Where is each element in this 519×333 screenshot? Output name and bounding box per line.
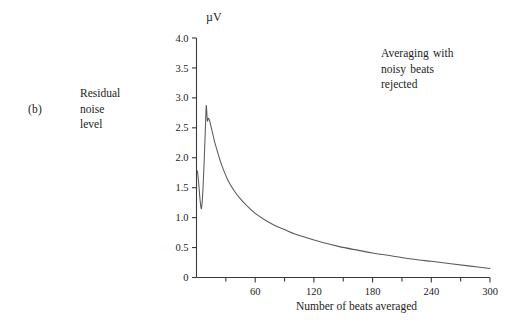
tick-labels-group: 00.51.01.52.02.53.03.54.060120180240300 — [175, 33, 498, 297]
y-tick-label: 3.0 — [175, 92, 188, 103]
y-tick-label: 0 — [183, 272, 188, 283]
figure-panel: (b) Residual noise level µV Averaging wi… — [0, 0, 519, 333]
x-tick-label: 120 — [306, 286, 322, 297]
axes-group — [192, 38, 490, 283]
y-tick-label: 1.0 — [175, 212, 188, 223]
y-tick-label: 2.5 — [175, 122, 188, 133]
x-tick-label: 180 — [365, 286, 381, 297]
x-tick-label: 300 — [482, 286, 498, 297]
y-tick-label: 3.5 — [175, 63, 188, 74]
x-tick-label: 240 — [423, 286, 439, 297]
x-tick-label: 60 — [250, 286, 261, 297]
y-tick-label: 0.5 — [175, 242, 188, 253]
chart-plot-area: 00.51.01.52.02.53.03.54.060120180240300 — [0, 0, 519, 333]
data-curve — [197, 106, 490, 269]
y-tick-label: 1.5 — [175, 182, 188, 193]
y-tick-label: 4.0 — [175, 33, 188, 44]
y-tick-label: 2.0 — [175, 152, 188, 163]
